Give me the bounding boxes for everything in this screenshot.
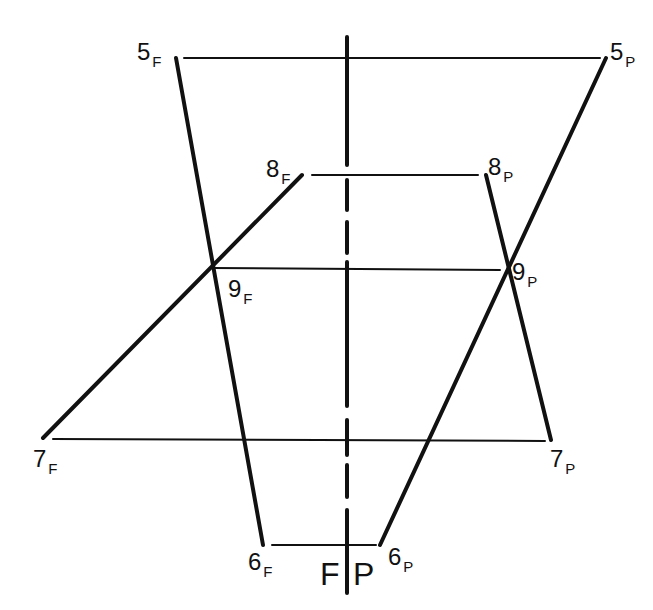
point-number: 9 [228, 275, 241, 302]
axis-label-F: F [320, 558, 340, 590]
point-label-5F: 5F [137, 40, 162, 64]
point-number: 5 [610, 38, 623, 65]
point-subscript: P [403, 558, 413, 575]
point-subscript: P [625, 53, 635, 70]
point-label-6P: 6P [388, 545, 413, 569]
point-subscript: F [243, 290, 252, 307]
point-label-6F: 6F [248, 550, 273, 574]
projection-diagram: 5F5P8F8P9F9P7F7P6F6PFP [0, 0, 653, 610]
point-label-9F: 9F [228, 277, 253, 301]
point-label-7P: 7P [550, 447, 575, 471]
point-label-8F: 8F [266, 157, 291, 181]
axis-label-P: P [353, 558, 374, 590]
point-label-9P: 9P [512, 260, 537, 284]
point-number: 8 [266, 155, 279, 182]
point-subscript: F [48, 460, 57, 477]
point-number: 9 [512, 258, 525, 285]
point-number: 6 [388, 543, 401, 570]
diagram-lines [0, 0, 653, 610]
line-h7 [53, 439, 545, 441]
point-number: 7 [33, 445, 46, 472]
point-number: 7 [550, 445, 563, 472]
line-h9 [212, 268, 500, 270]
point-number: 5 [137, 38, 150, 65]
point-subscript: P [565, 460, 575, 477]
point-label-8P: 8P [488, 155, 513, 179]
point-subscript: P [503, 168, 513, 185]
point-subscript: F [281, 170, 290, 187]
point-label-7F: 7F [33, 447, 58, 471]
point-subscript: F [152, 53, 161, 70]
point-subscript: F [263, 563, 272, 580]
point-number: 8 [488, 153, 501, 180]
line-8F-7F [43, 175, 302, 438]
point-number: 6 [248, 548, 261, 575]
point-subscript: P [527, 273, 537, 290]
line-8P-7P [486, 175, 551, 440]
point-label-5P: 5P [610, 40, 635, 64]
